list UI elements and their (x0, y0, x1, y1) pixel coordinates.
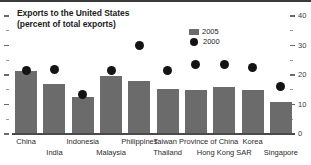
dot-indonesia (78, 90, 87, 99)
y-axis-tick-label-10: 10 (298, 101, 306, 109)
y-axis-tick-label-20: 20 (298, 71, 306, 79)
dot-malaysia (107, 66, 116, 75)
bar-singapore (270, 102, 292, 134)
y-axis-tick-label-30: 30 (298, 42, 306, 50)
dot-singapore (276, 82, 285, 91)
category-label-philippines: Philippines (121, 137, 157, 146)
bar-taiwan-province-of-china (185, 90, 207, 134)
bar-india (43, 84, 65, 134)
category-label-china: China (16, 137, 36, 146)
dot-thailand (163, 66, 172, 75)
bar-thailand (157, 89, 179, 134)
plot-series-layer (12, 16, 295, 134)
category-label-singapore: Singapore (264, 148, 298, 157)
major-tick-left-20 (4, 74, 9, 76)
major-tick-left-40 (4, 15, 9, 17)
category-label-hong-kong-sar: Hong Kong SAR (197, 148, 252, 157)
category-label-indonesia: Indonesia (66, 137, 99, 146)
bar-indonesia (72, 97, 94, 134)
category-label-korea: Korea (243, 137, 263, 146)
dot-india (50, 65, 59, 74)
minor-tick-left-35 (6, 30, 9, 31)
dot-taiwan-province-of-china (191, 60, 200, 69)
bar-korea (242, 90, 264, 134)
bar-philippines (128, 81, 150, 134)
dot-korea (248, 63, 257, 72)
dot-philippines (135, 41, 144, 50)
axis-baseline (12, 133, 295, 135)
dot-china (22, 66, 31, 75)
dot-hong-kong-sar (220, 60, 229, 69)
category-axis-labels: ChinaIndiaIndonesiaMalaysiaPhilippinesTh… (0, 136, 311, 164)
category-label-malaysia: Malaysia (96, 148, 126, 157)
minor-tick-left-15 (6, 89, 9, 90)
y-axis-tick-label-40: 40 (298, 12, 306, 20)
bar-malaysia (100, 76, 122, 134)
category-label-taiwan-province-of-china: Taiwan Province of China (154, 137, 239, 146)
bar-china (15, 71, 37, 134)
major-tick-left-0 (4, 133, 9, 135)
major-tick-left-30 (4, 45, 9, 47)
top-border-rule (0, 0, 311, 2)
chart-figure: Exports to the United States (percent of… (0, 0, 311, 165)
minor-tick-left-25 (6, 60, 9, 61)
major-tick-left-10 (4, 104, 9, 106)
category-label-india: India (46, 148, 62, 157)
category-label-thailand: Thailand (153, 148, 182, 157)
bar-hong-kong-sar (213, 87, 235, 134)
minor-tick-left-5 (6, 119, 9, 120)
